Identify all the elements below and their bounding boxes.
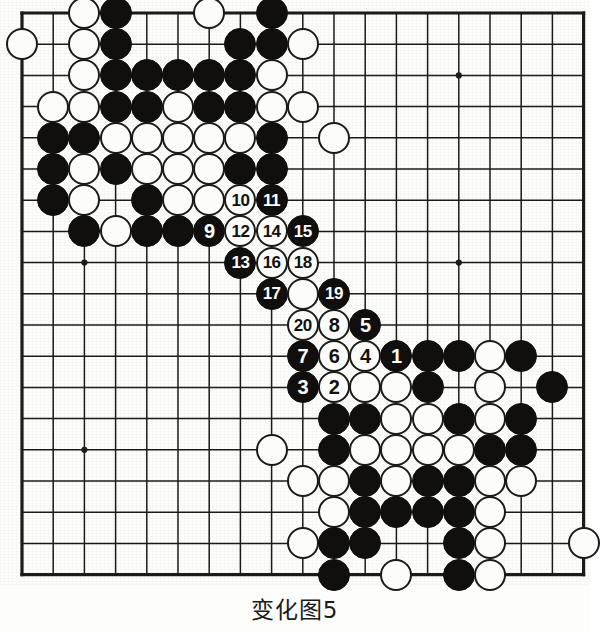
black-stone[interactable] [100, 28, 132, 60]
black-stone[interactable] [505, 403, 537, 435]
black-stone[interactable] [224, 153, 256, 185]
black-stone[interactable] [318, 434, 350, 466]
white-stone[interactable] [474, 403, 506, 435]
white-stone[interactable] [287, 278, 319, 310]
white-stone-move-2[interactable]: 2 [318, 371, 350, 403]
white-stone[interactable] [131, 153, 163, 185]
white-stone-move-4[interactable]: 4 [349, 340, 381, 372]
black-stone[interactable] [443, 403, 475, 435]
white-stone[interactable] [287, 527, 319, 559]
black-stone[interactable] [318, 403, 350, 435]
black-stone[interactable] [318, 527, 350, 559]
white-stone[interactable] [474, 527, 506, 559]
white-stone-move-6[interactable]: 6 [318, 340, 350, 372]
white-stone[interactable] [256, 59, 288, 91]
white-stone[interactable] [412, 434, 444, 466]
black-stone[interactable] [37, 122, 69, 154]
black-stone[interactable] [100, 153, 132, 185]
black-stone-move-11[interactable]: 11 [256, 184, 288, 216]
white-stone[interactable] [287, 28, 319, 60]
black-stone[interactable] [443, 496, 475, 528]
white-stone[interactable] [380, 371, 412, 403]
black-stone-move-17[interactable]: 17 [256, 278, 288, 310]
black-stone[interactable] [443, 527, 475, 559]
white-stone-move-12[interactable]: 12 [224, 215, 256, 247]
white-stone-move-18[interactable]: 18 [287, 247, 319, 279]
white-stone[interactable] [193, 184, 225, 216]
white-stone[interactable] [349, 371, 381, 403]
white-stone[interactable] [131, 122, 163, 154]
black-stone[interactable] [224, 59, 256, 91]
black-stone[interactable] [162, 59, 194, 91]
white-stone[interactable] [68, 28, 100, 60]
black-stone[interactable] [37, 153, 69, 185]
black-stone[interactable] [412, 465, 444, 497]
black-stone[interactable] [443, 559, 475, 591]
black-stone[interactable] [68, 122, 100, 154]
black-stone[interactable] [193, 59, 225, 91]
white-stone[interactable] [287, 465, 319, 497]
black-stone-move-13[interactable]: 13 [224, 247, 256, 279]
white-stone[interactable] [568, 527, 600, 559]
white-stone[interactable] [505, 465, 537, 497]
white-stone[interactable] [474, 340, 506, 372]
white-stone[interactable] [443, 434, 475, 466]
black-stone[interactable] [68, 215, 100, 247]
black-stone[interactable] [100, 59, 132, 91]
white-stone-move-20[interactable]: 20 [287, 309, 319, 341]
black-stone[interactable] [162, 215, 194, 247]
white-stone[interactable] [380, 465, 412, 497]
black-stone[interactable] [412, 371, 444, 403]
white-stone[interactable] [100, 122, 132, 154]
black-stone-move-15[interactable]: 15 [287, 215, 319, 247]
white-stone[interactable] [68, 184, 100, 216]
white-stone[interactable] [256, 91, 288, 123]
black-stone[interactable] [131, 59, 163, 91]
black-stone[interactable] [131, 91, 163, 123]
black-stone[interactable] [412, 340, 444, 372]
black-stone[interactable] [256, 122, 288, 154]
white-stone[interactable] [412, 403, 444, 435]
black-stone[interactable] [443, 340, 475, 372]
black-stone[interactable] [100, 91, 132, 123]
black-stone-move-19[interactable]: 19 [318, 278, 350, 310]
white-stone[interactable] [256, 434, 288, 466]
black-stone[interactable] [131, 215, 163, 247]
white-stone[interactable] [100, 215, 132, 247]
white-stone[interactable] [68, 91, 100, 123]
white-stone[interactable] [380, 403, 412, 435]
white-stone-move-14[interactable]: 14 [256, 215, 288, 247]
white-stone[interactable] [68, 59, 100, 91]
black-stone-move-7[interactable]: 7 [287, 340, 319, 372]
white-stone[interactable] [318, 496, 350, 528]
black-stone[interactable] [131, 184, 163, 216]
white-stone-move-16[interactable]: 16 [256, 247, 288, 279]
white-stone-move-8[interactable]: 8 [318, 309, 350, 341]
white-stone[interactable] [37, 91, 69, 123]
black-stone[interactable] [224, 91, 256, 123]
black-stone[interactable] [536, 371, 568, 403]
white-stone[interactable] [162, 184, 194, 216]
black-stone[interactable] [505, 340, 537, 372]
white-stone[interactable] [318, 465, 350, 497]
white-stone[interactable] [193, 122, 225, 154]
white-stone[interactable] [68, 0, 100, 29]
white-stone[interactable] [380, 434, 412, 466]
white-stone[interactable] [162, 91, 194, 123]
white-stone[interactable] [349, 434, 381, 466]
black-stone[interactable] [100, 0, 132, 29]
black-stone[interactable] [256, 0, 288, 29]
white-stone[interactable] [318, 122, 350, 154]
white-stone[interactable] [193, 153, 225, 185]
white-stone[interactable] [68, 153, 100, 185]
black-stone-move-1[interactable]: 1 [380, 340, 412, 372]
white-stone[interactable] [474, 559, 506, 591]
black-stone[interactable] [380, 496, 412, 528]
white-stone[interactable] [474, 371, 506, 403]
black-stone[interactable] [256, 153, 288, 185]
black-stone[interactable] [505, 434, 537, 466]
white-stone[interactable] [162, 122, 194, 154]
black-stone-move-5[interactable]: 5 [349, 309, 381, 341]
black-stone[interactable] [193, 91, 225, 123]
white-stone[interactable] [224, 122, 256, 154]
